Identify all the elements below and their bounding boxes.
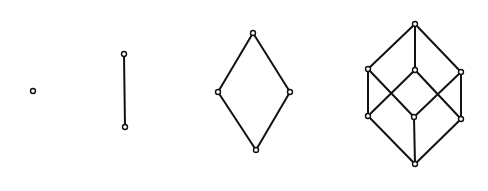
edge	[368, 24, 415, 69]
node	[31, 89, 36, 94]
node	[413, 22, 418, 27]
edge	[368, 116, 415, 164]
graph-B2-diamond	[216, 31, 293, 153]
graph-B1-segment	[122, 52, 128, 130]
node	[413, 162, 418, 167]
node	[459, 70, 464, 75]
node	[459, 117, 464, 122]
edge	[124, 54, 125, 127]
edge	[218, 33, 253, 92]
node	[413, 68, 418, 73]
graph-B0-point	[31, 89, 36, 94]
node	[254, 148, 259, 153]
node	[366, 67, 371, 72]
node	[122, 52, 127, 57]
node	[251, 31, 256, 36]
graph-B3-cube	[366, 22, 464, 167]
node	[123, 125, 128, 130]
edge	[218, 92, 256, 150]
node	[216, 90, 221, 95]
edge	[415, 119, 461, 164]
hasse-diagram-canvas	[0, 0, 488, 191]
edge	[256, 92, 290, 150]
node	[288, 90, 293, 95]
node	[366, 114, 371, 119]
node	[412, 115, 417, 120]
edge	[414, 117, 415, 164]
edge	[415, 24, 461, 72]
edge	[253, 33, 290, 92]
